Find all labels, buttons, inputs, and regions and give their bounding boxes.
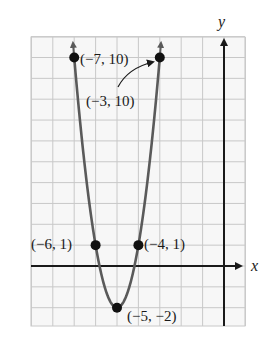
point-label-neg3-10: (−3, 10)	[86, 93, 134, 110]
data-point	[155, 53, 165, 63]
data-point	[91, 240, 101, 250]
point-label-neg7-10: (−7, 10)	[80, 51, 128, 68]
data-point	[69, 53, 79, 63]
point-label-neg6-1: (−6, 1)	[31, 236, 72, 253]
parabola-chart: y x (−7, 10) (−3, 10) (−6, 1) (−4, 1) (−…	[0, 0, 271, 339]
data-point	[133, 240, 143, 250]
data-point	[112, 303, 122, 313]
point-label-vertex: (−5, −2)	[127, 308, 176, 325]
y-axis-label: y	[216, 13, 226, 31]
point-label-neg4-1: (−4, 1)	[144, 236, 185, 253]
x-axis-label: x	[250, 257, 258, 274]
